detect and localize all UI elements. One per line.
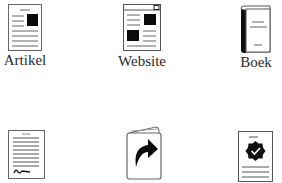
article-icon: [8, 4, 42, 51]
source-type-boek[interactable]: Boek: [188, 0, 282, 70]
webpage-icon: [123, 4, 161, 51]
source-type-label: Boek: [240, 54, 272, 70]
source-type-artikel[interactable]: Artikel: [0, 0, 94, 70]
certificate-badge-icon: [238, 131, 273, 182]
source-type-label: Website: [118, 53, 166, 69]
source-type-certificate[interactable]: [188, 120, 282, 183]
source-type-document[interactable]: [0, 120, 94, 183]
signed-document-icon: [8, 130, 45, 179]
source-type-card[interactable]: [94, 120, 188, 183]
folded-card-share-icon: [126, 125, 164, 181]
source-type-label: Artikel: [4, 52, 47, 68]
source-type-website[interactable]: Website: [94, 0, 188, 70]
book-icon: [238, 5, 271, 54]
